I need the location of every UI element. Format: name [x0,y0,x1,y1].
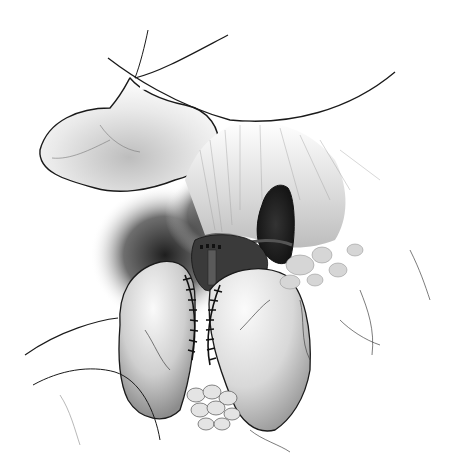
illustration-svg [0,0,457,473]
upper-membrane [140,0,457,121]
left-lower-lobe [119,261,195,418]
bowel-outline-left [25,318,118,355]
fat-lobules [187,385,240,430]
surgical-illustration [0,0,457,473]
